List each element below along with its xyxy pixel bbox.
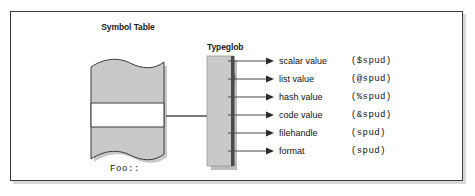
slot-label: hash value <box>279 92 323 103</box>
slot-label: scalar value <box>279 56 327 67</box>
symbol-table-paper: Foo:: <box>86 57 178 165</box>
slot-label: code value <box>279 110 323 121</box>
slot-value: (%spud) <box>351 92 392 103</box>
slot-value: (spud) <box>351 146 386 157</box>
slot-value: (&spud) <box>351 110 392 121</box>
symbol-table-entry-label: Foo:: <box>86 164 164 174</box>
symbol-table-heading: Symbol Table <box>78 22 178 32</box>
slot-value: ($spud) <box>351 56 392 67</box>
symbol-table-entry-band <box>91 103 164 127</box>
symbol-table-paper-shape <box>86 57 178 165</box>
typeglob-diagram: Symbol Table Typeglob (*spud) Foo:: <box>0 0 475 196</box>
typeglob-slot-arrows <box>228 50 276 172</box>
slot-row: format (spud) <box>279 146 289 190</box>
slot-label: filehandle <box>279 128 318 139</box>
slot-value: (spud) <box>351 128 386 139</box>
slot-label: list value <box>279 74 314 85</box>
slot-value: (@spud) <box>351 74 392 85</box>
slot-label: format <box>279 146 305 157</box>
